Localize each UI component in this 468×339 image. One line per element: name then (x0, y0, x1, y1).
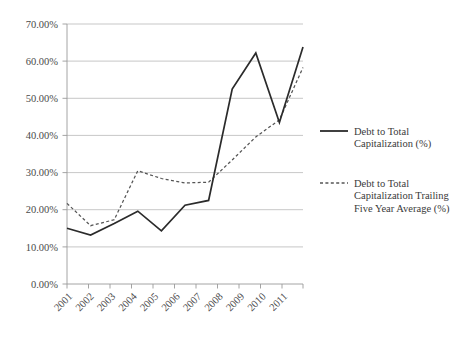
series-line-trailing-average (67, 67, 303, 225)
legend-label-2-line3: Five Year Average (%) (354, 203, 450, 215)
x-tick-label: 2006 (159, 291, 182, 314)
y-tick-label: 10.00% (26, 242, 59, 253)
gridlines (67, 24, 303, 247)
y-tick-label: 40.00% (26, 130, 59, 141)
y-tick-label: 20.00% (26, 204, 59, 215)
series-line-debt-to-total-cap (67, 47, 303, 235)
y-tick-label: 0.00% (31, 279, 58, 290)
x-axis-tick-marks (67, 284, 303, 289)
x-tick-label: 2001 (52, 291, 75, 314)
y-tick-label: 70.00% (26, 19, 59, 30)
legend: Debt to Total Capitalization (%) Debt to… (320, 126, 450, 215)
y-tick-label: 30.00% (26, 167, 59, 178)
x-tick-label: 2011 (267, 291, 289, 313)
x-tick-label: 2008 (202, 291, 225, 314)
legend-label-2-line2: Capitalization Trailing (354, 190, 450, 201)
x-tick-label: 2009 (224, 291, 247, 314)
legend-label-1-line1: Debt to Total (354, 126, 409, 137)
y-tick-label: 60.00% (26, 56, 59, 67)
x-axis-labels: 2001 2002 2003 2004 2005 2006 2007 2008 … (52, 290, 290, 313)
line-chart: 70.00% 60.00% 50.00% 40.00% 30.00% 20.00… (0, 0, 468, 339)
y-axis-labels: 70.00% 60.00% 50.00% 40.00% 30.00% 20.00… (26, 19, 59, 290)
y-axis-tick-marks (63, 24, 68, 284)
y-tick-label: 50.00% (26, 93, 59, 104)
x-tick-label: 2004 (116, 290, 139, 313)
chart-canvas: 70.00% 60.00% 50.00% 40.00% 30.00% 20.00… (0, 0, 468, 339)
x-tick-label: 2002 (73, 291, 96, 314)
legend-label-1-line2: Capitalization (%) (354, 138, 432, 150)
x-tick-label: 2007 (181, 291, 204, 314)
x-tick-label: 2003 (95, 291, 118, 314)
legend-label-2-line1: Debt to Total (354, 178, 409, 189)
x-tick-label: 2005 (138, 291, 161, 314)
x-tick-label: 2010 (245, 291, 268, 314)
